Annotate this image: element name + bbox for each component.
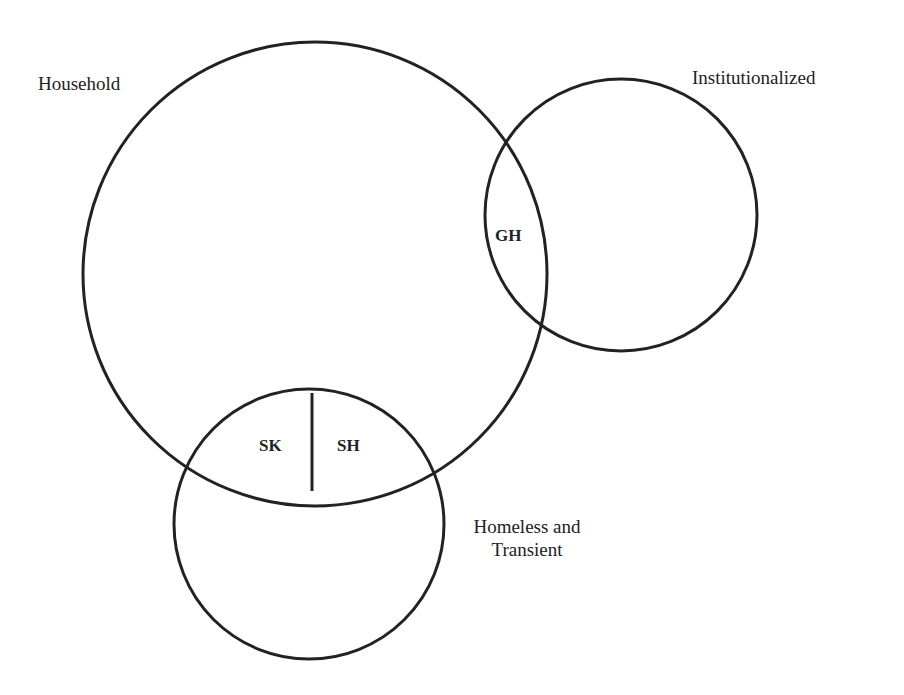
region-sh-label: SH <box>337 436 360 456</box>
institutionalized-label: Institutionalized <box>692 66 815 89</box>
region-sk-label: SK <box>259 436 282 456</box>
homeless-label: Homeless and Transient <box>462 515 592 561</box>
region-gh-label: GH <box>495 226 521 246</box>
homeless-label-line-2: Transient <box>462 538 592 561</box>
household-label: Household <box>38 72 120 95</box>
venn-diagram: Household Institutionalized Homeless and… <box>0 0 904 695</box>
institutionalized-circle <box>485 79 757 351</box>
household-circle <box>83 42 547 506</box>
homeless-circle <box>174 389 444 659</box>
homeless-label-line-1: Homeless and <box>462 515 592 538</box>
venn-shapes <box>0 0 904 695</box>
